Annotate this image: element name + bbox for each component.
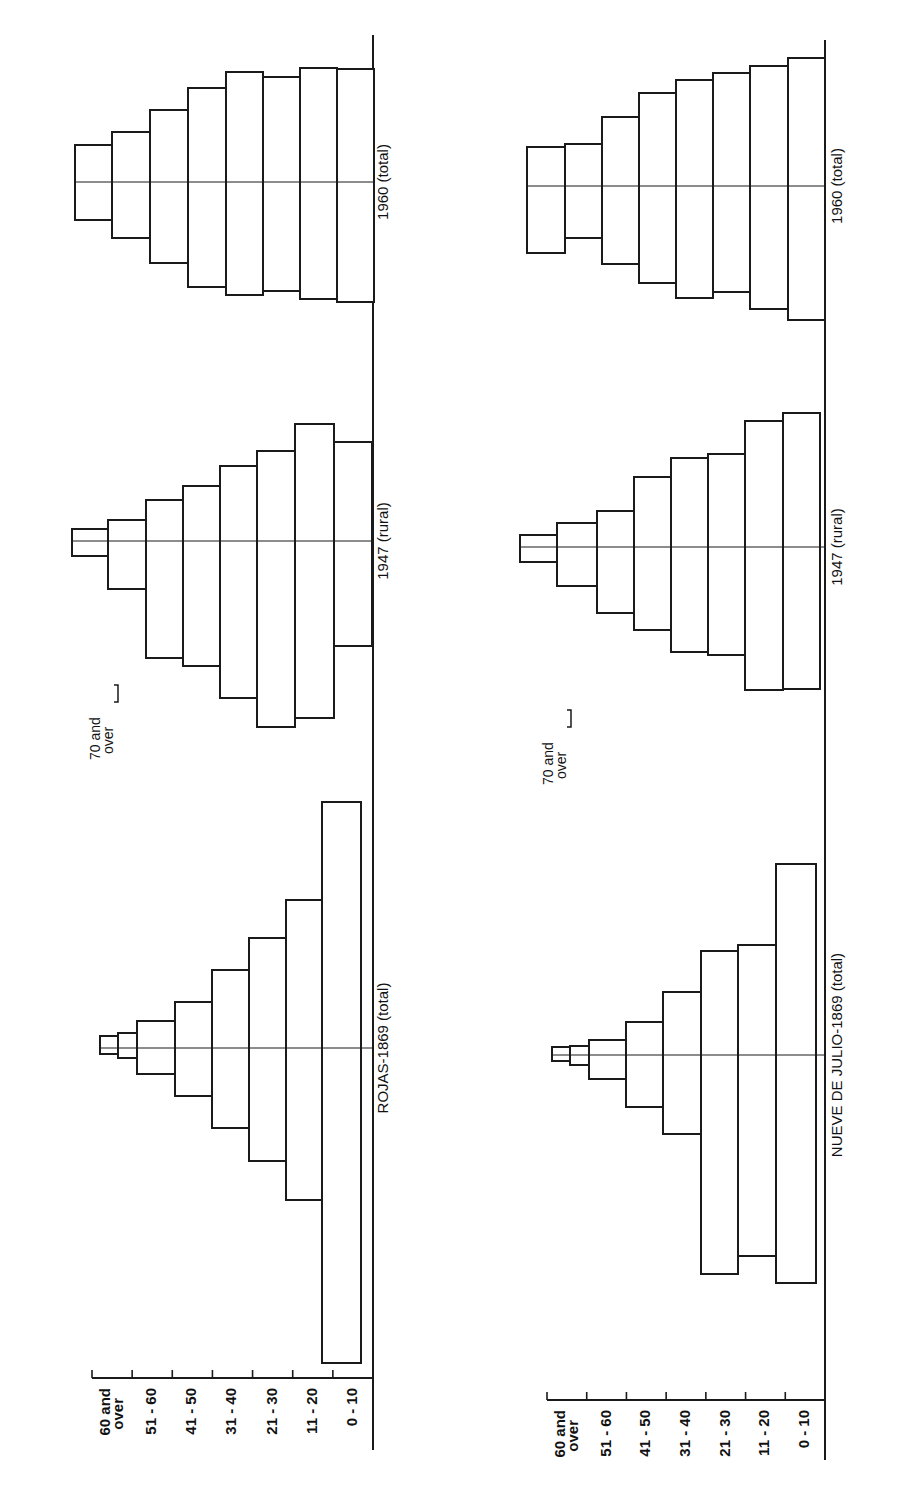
age-bar <box>146 500 183 658</box>
age-label: 60 andover <box>551 1410 581 1458</box>
panels: 1960 (total)1947 (rural)ROJAS-1869 (tota… <box>72 35 845 1460</box>
age-bar <box>708 454 745 655</box>
age-bar <box>220 466 257 698</box>
age-bar <box>72 529 108 556</box>
age-bar <box>226 72 263 295</box>
pyramid-title: ROJAS-1869 (total) <box>374 983 391 1114</box>
age-bar <box>750 66 788 309</box>
panel-rojas: 1960 (total)1947 (rural)ROJAS-1869 (tota… <box>72 35 391 1450</box>
age-label: 41 - 50 <box>182 1388 199 1435</box>
age-bar <box>249 938 286 1161</box>
pyramid: 1947 (rural) <box>72 424 391 727</box>
age-bar <box>639 93 676 283</box>
age-bar <box>527 147 565 253</box>
age-bar <box>713 73 750 292</box>
age-label: 51 - 60 <box>597 1410 614 1457</box>
age-bar <box>212 970 249 1128</box>
age-label: 11 - 20 <box>755 1410 772 1456</box>
age-bar <box>175 1002 212 1096</box>
age-bar <box>118 1033 137 1058</box>
age-label: 21 - 30 <box>263 1388 280 1435</box>
age-bar <box>671 458 708 652</box>
pyramid-title: 1947 (rural) <box>828 508 845 586</box>
age-bar <box>745 421 783 690</box>
age-bar <box>783 413 820 689</box>
pyramid-title: 1947 (rural) <box>374 502 391 580</box>
age-bar <box>183 486 220 666</box>
age-bar <box>108 520 146 589</box>
age-bar <box>337 69 374 302</box>
age-bar <box>565 144 602 238</box>
age-label: 21 - 30 <box>716 1410 733 1457</box>
age-bar <box>257 451 295 727</box>
age-bar <box>100 1036 118 1054</box>
age-label: 11 - 20 <box>303 1388 320 1434</box>
age-bar <box>557 523 597 586</box>
note-70-and-over: 70 andover <box>540 710 571 785</box>
age-bar <box>626 1022 663 1107</box>
age-bar <box>788 58 825 320</box>
age-bar <box>263 77 300 291</box>
age-bar <box>150 110 188 263</box>
svg-text:70 andover: 70 andover <box>540 742 569 785</box>
pyramid: 1947 (rural) <box>520 413 845 690</box>
age-bar <box>300 68 337 299</box>
age-axis: 60 andover51 - 6041 - 5031 - 4021 - 3011… <box>92 1370 373 1436</box>
pyramid: ROJAS-1869 (total) <box>100 802 391 1363</box>
age-bar <box>188 88 226 287</box>
age-label: 60 andover <box>96 1388 126 1436</box>
age-bar <box>776 864 816 1283</box>
pyramid-title: 1960 (total) <box>374 144 391 220</box>
age-label: 0 - 10 <box>343 1388 360 1426</box>
age-bar <box>520 535 557 562</box>
age-bar <box>295 424 334 718</box>
note-70-and-over: 70 andover <box>87 685 118 760</box>
pyramid: 1960 (total) <box>527 58 845 320</box>
pyramid: NUEVE DE JULIO-1869 (total) <box>552 864 845 1283</box>
pyramid-title: 1960 (total) <box>828 148 845 224</box>
age-bar <box>676 80 713 298</box>
age-bar <box>286 900 322 1200</box>
age-bar <box>334 442 372 646</box>
age-bar <box>589 1040 626 1079</box>
age-bar <box>597 511 634 613</box>
age-label: 51 - 60 <box>142 1388 159 1435</box>
age-axis: 60 andover51 - 6041 - 5031 - 4021 - 3011… <box>547 1392 825 1458</box>
age-bar <box>552 1047 570 1061</box>
panel-nueve-de-julio: 1960 (total)1947 (rural)NUEVE DE JULIO-1… <box>520 40 845 1460</box>
svg-text:70 andover: 70 andover <box>87 717 116 760</box>
age-bar <box>663 992 701 1134</box>
age-bar <box>112 132 150 238</box>
population-pyramids-figure: 1960 (total)1947 (rural)ROJAS-1869 (tota… <box>0 0 902 1486</box>
pyramid-title: NUEVE DE JULIO-1869 (total) <box>828 953 845 1157</box>
pyramid: 1960 (total) <box>75 68 391 302</box>
age-bar <box>701 951 738 1274</box>
age-label: 0 - 10 <box>795 1410 812 1448</box>
age-label: 31 - 40 <box>222 1388 239 1435</box>
age-label: 41 - 50 <box>636 1410 653 1457</box>
age-label: 31 - 40 <box>676 1410 693 1457</box>
age-bar <box>322 802 361 1363</box>
age-bar <box>738 945 776 1256</box>
age-bar <box>634 477 671 630</box>
age-bar <box>602 117 639 264</box>
